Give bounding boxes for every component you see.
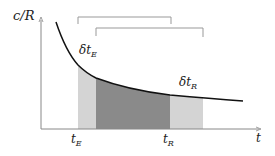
delta-t-E-label: δtE [79, 43, 97, 59]
y-axis-label: c/R [13, 8, 35, 23]
delta-t-R-label: δtR [179, 75, 197, 91]
diagram-canvas: c/R δtE δtR tE tR t [0, 0, 275, 156]
region-delta-t-E [78, 65, 96, 129]
bracket-second [96, 28, 203, 37]
region-delta-t-R [170, 95, 203, 129]
tick-label-t-R: tR [163, 132, 174, 148]
tick-label-t-E: tE [71, 132, 82, 148]
bracket-top [78, 17, 171, 24]
region-main-dark [96, 78, 170, 129]
x-axis-label: t [256, 131, 261, 145]
